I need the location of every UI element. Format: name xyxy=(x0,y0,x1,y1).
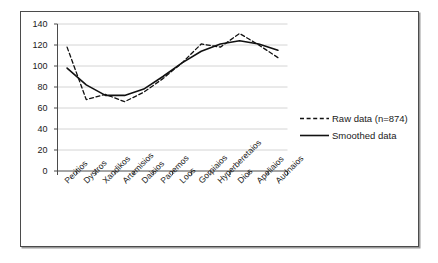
y-axis-tick-label: 120 xyxy=(24,40,48,50)
y-axis-tick-label: 80 xyxy=(24,82,48,92)
y-axis-tick-label: 0 xyxy=(24,166,48,176)
y-axis-tick-label: 60 xyxy=(24,103,48,113)
chart-screenshot: 020406080100120140 PeritiosDystrosXandik… xyxy=(0,0,438,263)
y-axis-tick-label: 20 xyxy=(24,145,48,155)
legend-entry-smoothed-data: Smoothed data xyxy=(332,130,396,141)
y-axis-tick-label: 140 xyxy=(24,19,48,29)
y-axis-tick-label: 40 xyxy=(24,124,48,134)
chart-frame xyxy=(20,11,419,247)
legend-entry-raw-data: Raw data (n=874) xyxy=(332,113,408,124)
y-axis-tick-label: 100 xyxy=(24,61,48,71)
